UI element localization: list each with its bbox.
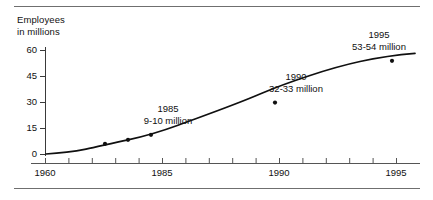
- data-point-marker: [149, 133, 153, 137]
- x-tick-label-1995: 1995: [373, 168, 419, 178]
- annotation-1995-year: 1995: [321, 29, 433, 41]
- data-point-marker: [103, 142, 107, 146]
- y-tick-label-60: 60: [11, 45, 37, 55]
- data-line-employees: [46, 53, 415, 154]
- annotation-1990: 1990 32-33 million: [238, 71, 354, 94]
- annotation-1995-value: 53-54 million: [321, 41, 433, 53]
- data-point-marker: [126, 138, 130, 142]
- y-axis-ticks: [40, 51, 46, 155]
- annotation-1985: 1985 9-10 million: [118, 103, 218, 126]
- y-tick-label-30: 30: [11, 97, 37, 107]
- x-tick-label-1985: 1985: [139, 168, 185, 178]
- y-tick-label-45: 45: [11, 71, 37, 81]
- x-axis-ticks: [46, 158, 397, 164]
- chart-figure: Employees in millions: [0, 0, 433, 200]
- annotation-1995: 1995 53-54 million: [321, 29, 433, 52]
- data-point-marker: [273, 101, 277, 105]
- x-tick-label-1990: 1990: [256, 168, 302, 178]
- y-tick-label-15: 15: [11, 123, 37, 133]
- x-tick-label-1960: 1960: [22, 168, 68, 178]
- annotation-1985-year: 1985: [118, 103, 218, 115]
- annotation-1990-value: 32-33 million: [238, 83, 354, 95]
- y-tick-label-0: 0: [11, 149, 37, 159]
- annotation-1990-year: 1990: [238, 71, 354, 83]
- data-point-marker: [390, 59, 394, 63]
- annotation-1985-value: 9-10 million: [118, 115, 218, 127]
